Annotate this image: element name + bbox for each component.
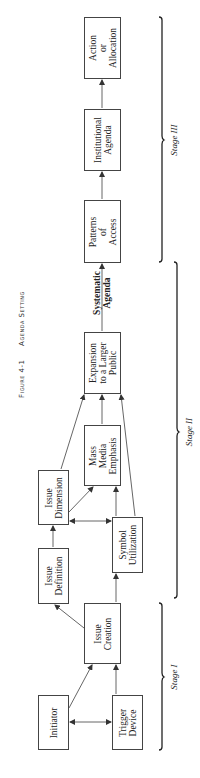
box-label: Issue Creation	[93, 617, 113, 650]
box-expansion-to-larger-public: Expansion to a Larger Public	[84, 332, 121, 394]
box-issue-dimension: Issue Dimension	[38, 470, 69, 525]
stage2-label: Stage II	[184, 418, 194, 446]
box-symbol-utilization: Symbol Utilization	[112, 517, 143, 573]
box-label: Patterns of Access	[88, 216, 118, 247]
box-label: Issue Dimension	[44, 477, 64, 519]
arrow-initiator-creation	[69, 665, 92, 708]
arrow-creation-definition	[55, 605, 84, 628]
box-label: Action or Allocation	[88, 28, 118, 68]
box-action-or-allocation: Action or Allocation	[84, 17, 121, 79]
arrow-symbol-expansion	[121, 395, 135, 516]
box-issue-definition: Issue Definition	[38, 548, 69, 604]
box-patterns-of-access: Patterns of Access	[84, 200, 121, 263]
box-label: Issue Definition	[44, 556, 64, 595]
box-mass-media-emphasis: Mass Media Emphasis	[84, 425, 121, 486]
box-initiator: Initiator	[38, 695, 69, 750]
box-label: Institutional Agenda	[93, 117, 113, 163]
box-issue-creation: Issue Creation	[84, 603, 121, 664]
stage3-label: Stage III	[169, 124, 179, 155]
figure-number: Figure 4-1	[18, 360, 26, 398]
box-label: Initiator	[49, 707, 59, 738]
figure-title: Figure 4-1 Agenda Setting	[10, 291, 34, 409]
arrow-dimension-media	[69, 487, 93, 512]
box-trigger-device: Trigger Device	[112, 695, 143, 750]
box-label: Mass Media Emphasis	[88, 437, 118, 474]
stage2-bracket	[174, 262, 179, 598]
agenda-setting-diagram: Figure 4-1 Agenda Setting Action or Allo…	[0, 0, 200, 778]
figure-caption: Agenda Setting	[18, 291, 26, 346]
stage1-bracket	[159, 603, 164, 750]
stage1-label: Stage I	[169, 664, 179, 689]
systematic-agenda-label: Systematic Agenda	[92, 271, 112, 315]
box-label: Trigger Device	[118, 708, 138, 736]
box-label: Expansion to a Larger Public	[88, 342, 118, 384]
box-institutional-agenda: Institutional Agenda	[84, 109, 121, 171]
arrow-dimension-expansion	[61, 395, 84, 469]
box-label: Symbol Utilization	[118, 525, 138, 566]
stage3-bracket	[159, 17, 164, 262]
